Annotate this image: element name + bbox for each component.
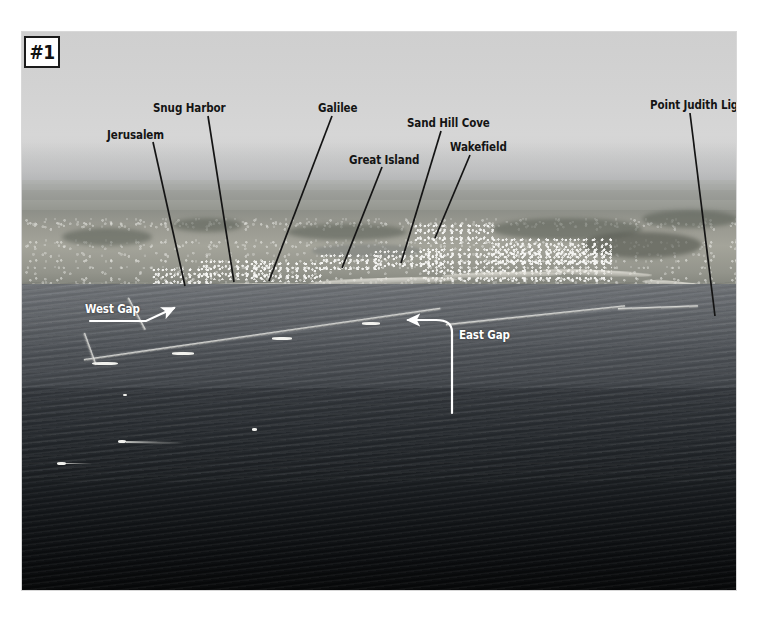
- breakwater-foam: [362, 322, 380, 325]
- boat-wake: [66, 463, 92, 464]
- label-sand-hill-cove: Sand Hill Cove: [407, 118, 490, 130]
- village-great-island: [320, 254, 382, 270]
- label-wakefield: Wakefield: [450, 142, 507, 154]
- woodland-patch: [62, 228, 152, 246]
- label-jerusalem: Jerusalem: [107, 130, 164, 142]
- village-galilee: [250, 262, 322, 282]
- village-narragansett: [492, 238, 612, 266]
- boat: [252, 428, 257, 431]
- figure-panel: JerusalemSnug HarborGalileeGreat IslandS…: [0, 0, 758, 617]
- boat: [118, 440, 126, 443]
- boat: [57, 462, 66, 465]
- woodland-patch: [642, 210, 736, 228]
- label-west-gap: West Gap: [85, 304, 140, 316]
- boat: [123, 394, 127, 396]
- woodland-patch: [172, 218, 242, 232]
- label-great-island: Great Island: [349, 155, 419, 167]
- aerial-photograph: JerusalemSnug HarborGalileeGreat IslandS…: [22, 32, 736, 590]
- label-snug-harbor: Snug Harbor: [153, 103, 225, 115]
- breakwater-foam: [172, 352, 194, 355]
- label-galilee: Galilee: [318, 103, 357, 115]
- ocean-water: [22, 388, 736, 590]
- village-wakefield: [414, 224, 494, 244]
- breakwater-foam: [92, 362, 118, 365]
- breakwater-foam: [272, 337, 292, 340]
- figure-number-badge: #1: [24, 36, 60, 68]
- label-point-judith-light: Point Judith Light: [650, 100, 736, 112]
- label-east-gap: East Gap: [459, 330, 510, 342]
- woodland-patch: [287, 224, 407, 240]
